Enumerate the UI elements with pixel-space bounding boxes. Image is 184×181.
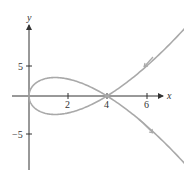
direction-arrow-lower [139,119,153,133]
x-tick-label-4: 4 [104,99,109,110]
parametric-plot: 2 4 6 5 −5 x y [0,0,184,181]
x-tick-label-2: 2 [65,99,70,110]
y-tick-label-5: 5 [18,61,23,72]
x-tick-label-6: 6 [144,99,149,110]
y-axis-label: y [26,12,32,23]
x-axis-label: x [166,90,172,101]
y-tick-label-minus5: −5 [12,129,23,140]
